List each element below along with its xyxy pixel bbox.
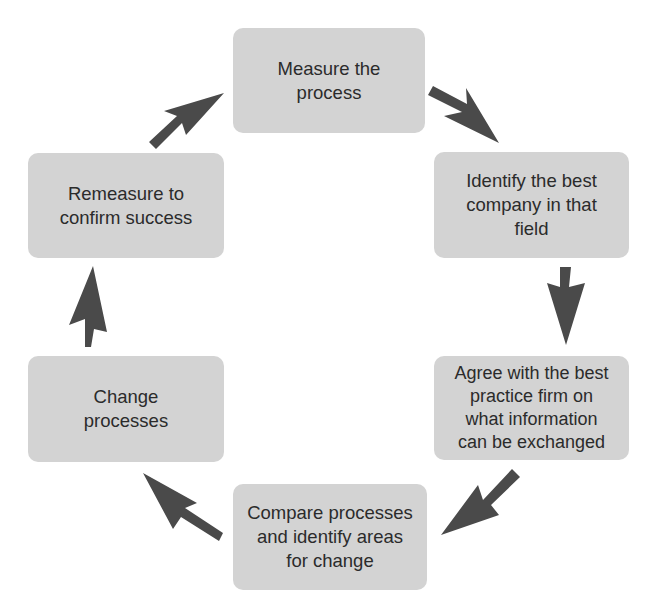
arrow-measure-to-identify-icon bbox=[428, 86, 499, 143]
arrow-remeasure-to-measure-icon bbox=[149, 93, 224, 149]
arrow-change-to-remeasure-icon bbox=[69, 266, 107, 347]
step-agree-information-exchange: Agree with the best practice firm on wha… bbox=[434, 356, 629, 460]
step-compare-processes: Compare processes and identify areas for… bbox=[233, 484, 427, 590]
step-remeasure-confirm-success: Remeasure to confirm success bbox=[28, 153, 224, 258]
step-identify-best-company: Identify the best company in that field bbox=[434, 152, 629, 258]
arrow-identify-to-agree-icon bbox=[547, 267, 585, 345]
arrow-agree-to-compare-icon bbox=[441, 469, 520, 535]
step-measure-the-process: Measure the process bbox=[233, 28, 425, 133]
arrow-compare-to-change-icon bbox=[143, 473, 223, 541]
step-change-processes: Change processes bbox=[28, 356, 224, 462]
